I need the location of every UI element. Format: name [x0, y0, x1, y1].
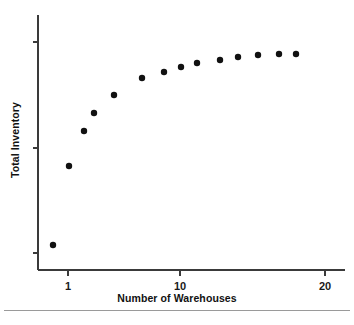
data-point [139, 75, 145, 81]
data-point [217, 57, 223, 63]
data-point [111, 92, 117, 98]
data-point [161, 69, 167, 75]
x-axis-title: Number of Warehouses [0, 292, 354, 304]
x-tick-label-0: 1 [65, 280, 71, 292]
x-tick-label-1: 10 [174, 280, 186, 292]
data-point-series [50, 51, 299, 248]
data-point [66, 163, 72, 169]
data-point [255, 52, 261, 58]
data-point [293, 51, 299, 57]
data-point [276, 51, 282, 57]
x-axis-ticks [68, 270, 325, 276]
data-point [178, 64, 184, 70]
data-point [91, 110, 97, 116]
data-point [194, 60, 200, 66]
x-axis-tick-labels: 11020 [65, 280, 331, 292]
data-point [50, 242, 56, 248]
y-axis-title: Total Inventory [9, 102, 21, 178]
scatter-plot-canvas: 11020 [0, 0, 354, 325]
data-point [81, 128, 87, 134]
y-axis-title-wrapper: Total Inventory [2, 0, 28, 280]
data-point [235, 54, 241, 60]
x-tick-label-2: 20 [319, 280, 331, 292]
chart-figure: 11020 Total Inventory Number of Warehous… [0, 0, 354, 325]
footer-divider [4, 310, 350, 311]
